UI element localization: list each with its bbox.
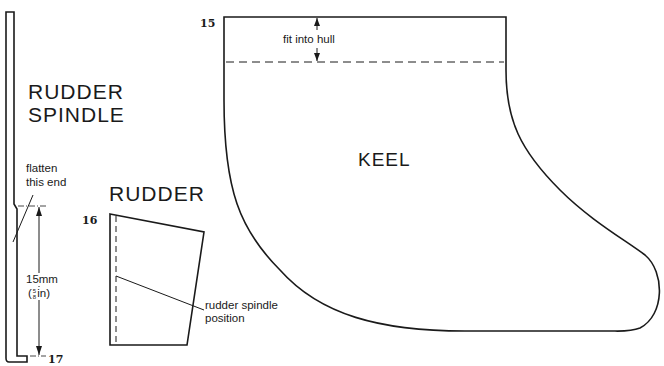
- dimension-inch-open: (: [28, 287, 32, 299]
- diagram-canvas: [0, 0, 664, 366]
- rudder-spindle-position-note-line1: rudder spindle: [205, 299, 278, 312]
- keel-shape: [224, 17, 659, 331]
- keel-hull-note: fit into hull: [283, 33, 335, 46]
- dimension-inch-fraction: 58: [33, 288, 36, 300]
- dimension-inch-label: (58in): [28, 287, 50, 300]
- flatten-note-line1: flatten: [26, 162, 57, 175]
- rudder-title: RUDDER: [109, 183, 205, 205]
- rudder-spindle-position-note-line2: position: [205, 312, 245, 325]
- dimension-inch-close: in): [37, 287, 50, 299]
- dimension-mm-label: 15mm: [26, 273, 58, 286]
- part-number-16: 16: [82, 214, 97, 227]
- part-number-17: 17: [48, 353, 63, 366]
- flatten-leader-line: [13, 195, 33, 242]
- rudder-spindle-title-line1: RUDDER: [28, 81, 124, 103]
- fraction-denominator: 8: [33, 294, 36, 300]
- keel-title: KEEL: [358, 149, 411, 171]
- part-number-15: 15: [200, 17, 215, 30]
- rudder-spindle-title-line2: SPINDLE: [28, 104, 125, 126]
- flatten-note-line2: this end: [26, 176, 66, 189]
- rudder-spindle-leader-line: [116, 276, 204, 310]
- rudder-spindle-shape: [6, 12, 27, 362]
